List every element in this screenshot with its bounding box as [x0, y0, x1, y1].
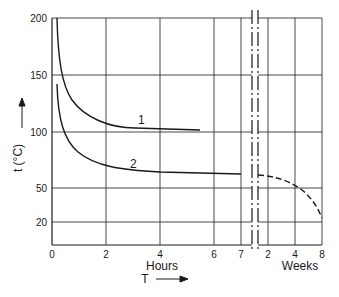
- grid-right: [258, 18, 322, 245]
- curve-1-label: 1: [138, 113, 145, 127]
- y-tick-100: 100: [30, 127, 47, 138]
- hours-label: Hours: [146, 259, 178, 273]
- y-axis-label: t (°C): [11, 144, 25, 172]
- y-tick-20: 20: [36, 217, 48, 228]
- x-tick-7: 7: [238, 249, 244, 260]
- weeks-label: Weeks: [282, 259, 318, 273]
- x-tick-6: 6: [211, 249, 217, 260]
- x-axis-label: T: [141, 272, 149, 286]
- x-tick-0: 0: [49, 249, 55, 260]
- curve-1: [57, 18, 200, 130]
- x-axis-arrow-icon: [156, 276, 188, 282]
- axis-break: [252, 10, 258, 252]
- chart: 1 2 200 150 100 50 20 0 2 4 6 7 2 4 8 Ho…: [0, 0, 339, 297]
- x-tick-w2: 2: [265, 249, 271, 260]
- y-tick-150: 150: [30, 70, 47, 81]
- y-tick-50: 50: [36, 183, 48, 194]
- x-tick-w8: 8: [319, 249, 325, 260]
- curve-2-label: 2: [130, 157, 137, 171]
- y-ticks: 200 150 100 50 20: [30, 13, 47, 228]
- y-tick-200: 200: [30, 13, 47, 24]
- axes: [52, 18, 322, 245]
- y-axis-arrow-icon: [19, 98, 25, 128]
- grid-left: [52, 18, 252, 245]
- x-tick-2: 2: [103, 249, 109, 260]
